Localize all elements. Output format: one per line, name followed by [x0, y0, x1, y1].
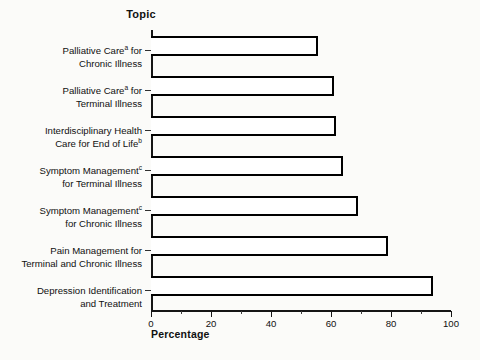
bar — [151, 236, 388, 256]
value-tick-label: 80 — [371, 318, 411, 329]
value-tick-minor — [181, 311, 182, 314]
value-tick-minor — [361, 311, 362, 314]
value-tick-label: 60 — [311, 318, 351, 329]
value-tick-major — [391, 311, 392, 317]
category-label: Palliative Carea forChronic Illness — [0, 44, 146, 70]
footnote-marker: a — [124, 84, 128, 91]
value-tick-label: 40 — [251, 318, 291, 329]
category-axis-title: Topic — [96, 8, 186, 20]
bar — [151, 116, 336, 136]
bar — [151, 276, 433, 296]
category-tick — [145, 290, 151, 291]
footnote-marker: a — [124, 44, 128, 51]
value-tick-minor — [301, 311, 302, 314]
plot-area: 020406080100 — [151, 30, 451, 310]
category-tick — [145, 170, 151, 171]
value-axis-title: Percentage — [151, 328, 210, 340]
value-tick-major — [451, 311, 452, 317]
bar — [151, 36, 318, 56]
category-label: Palliative Carea forTerminal Illness — [0, 84, 146, 110]
footnote-marker: c — [139, 164, 142, 171]
value-tick-major — [331, 311, 332, 317]
value-tick-minor — [421, 311, 422, 314]
category-label: Symptom Managementcfor Chronic Illness — [0, 204, 146, 230]
category-label: Symptom Managementcfor Terminal Illness — [0, 164, 146, 190]
category-label: Depression Identificationand Treatment — [0, 284, 146, 310]
value-tick-label: 100 — [431, 318, 471, 329]
bar — [151, 76, 334, 96]
bar — [151, 196, 358, 216]
footnote-marker: b — [138, 137, 142, 144]
category-label: Pain Management forTerminal and Chronic … — [0, 244, 146, 270]
value-tick-major — [151, 311, 152, 317]
value-tick-major — [271, 311, 272, 317]
bar — [151, 156, 343, 176]
category-tick — [145, 90, 151, 91]
category-tick — [145, 130, 151, 131]
category-tick — [145, 50, 151, 51]
value-tick-major — [211, 311, 212, 317]
bar-chart: Topic Palliative Carea forChronic Illnes… — [0, 0, 480, 360]
category-axis-labels: Palliative Carea forChronic IllnessPalli… — [0, 38, 146, 306]
category-tick — [145, 210, 151, 211]
footnote-marker: c — [139, 204, 142, 211]
value-tick-minor — [241, 311, 242, 314]
category-tick — [145, 250, 151, 251]
category-label: Interdisciplinary HealthCare for End of … — [0, 124, 146, 150]
